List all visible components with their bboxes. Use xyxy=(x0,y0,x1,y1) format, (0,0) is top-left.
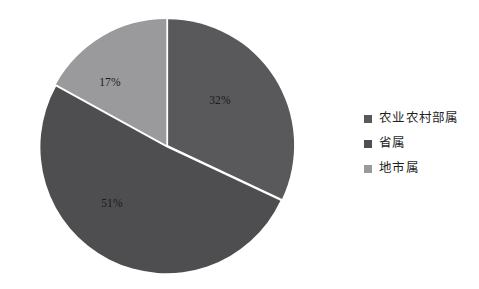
legend-swatch-icon-0 xyxy=(364,115,372,123)
legend-swatch-icon-1 xyxy=(364,140,372,148)
legend-item-0[interactable]: 农业农村部属 xyxy=(364,106,479,131)
chart-legend: 农业农村部属 省属 地市属 xyxy=(364,106,479,181)
pie-slice-label-0: 32% xyxy=(209,94,231,106)
pie-slice-group xyxy=(40,19,294,273)
legend-item-1[interactable]: 省属 xyxy=(364,131,479,156)
legend-label-2: 地市属 xyxy=(379,162,419,175)
pie-slice-label-2: 17% xyxy=(99,76,121,88)
legend-item-2[interactable]: 地市属 xyxy=(364,156,479,181)
pie-chart: 32%51%17% 农业农村部属 省属 地市属 xyxy=(0,0,479,289)
pie-slice-label-1: 51% xyxy=(101,197,123,209)
legend-label-0: 农业农村部属 xyxy=(379,112,459,125)
legend-swatch-icon-2 xyxy=(364,165,372,173)
pie-plot-area: 32%51%17% xyxy=(0,0,330,289)
legend-label-1: 省属 xyxy=(379,137,406,150)
pie-svg: 32%51%17% xyxy=(0,0,330,289)
